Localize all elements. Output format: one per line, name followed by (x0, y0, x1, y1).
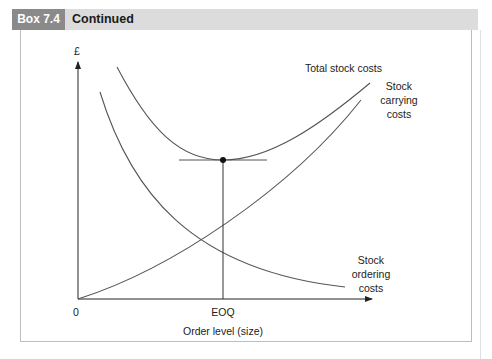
origin-label: 0 (73, 306, 79, 318)
total-costs-label: Total stock costs (305, 62, 382, 74)
carrying-costs-label-3: costs (387, 108, 412, 120)
carrying-costs-label-2: carrying (380, 94, 418, 106)
ordering-costs-label-1: Stock (358, 254, 385, 266)
ordering-costs-label-2: ordering (352, 268, 391, 280)
y-axis-label: £ (74, 45, 80, 57)
x-axis-label: Order level (size) (183, 325, 263, 337)
ordering-costs-label-3: costs (359, 282, 384, 294)
carrying-costs-curve (78, 100, 361, 299)
total-costs-curve (117, 67, 370, 160)
minimum-point (220, 157, 226, 163)
eoq-chart: £ 0 EOQ Order level (size) Total stock c… (0, 0, 492, 359)
carrying-costs-label-1: Stock (386, 80, 413, 92)
eoq-label: EOQ (211, 306, 234, 318)
